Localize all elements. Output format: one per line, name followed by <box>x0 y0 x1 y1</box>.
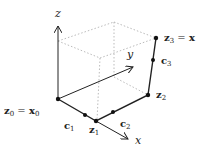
point-c2 <box>111 110 115 114</box>
c2-label: c2 <box>120 118 131 131</box>
z-axis-label: z <box>54 7 61 20</box>
z0-label: z0 = x0 <box>4 105 39 118</box>
z1-label: z1 <box>89 124 99 137</box>
point-z1 <box>94 119 98 123</box>
path-segments <box>58 38 156 121</box>
point-z2 <box>146 93 150 97</box>
coordinate-path-diagram: z y x z0 = x0 c1 z1 c2 z2 c3 z3 = x <box>0 0 208 150</box>
z2-label: z2 <box>156 89 166 102</box>
c1-label: c1 <box>64 120 75 133</box>
path-points <box>56 36 158 123</box>
point-c1 <box>83 113 87 117</box>
point-c3 <box>151 58 155 62</box>
y-axis-label: y <box>126 48 134 61</box>
x-axis-label: x <box>135 134 142 147</box>
z3-label: z3 = x <box>164 32 196 45</box>
point-z3 <box>154 36 158 40</box>
c3-label: c3 <box>161 55 172 68</box>
point-z0 <box>56 97 60 101</box>
dotted-box <box>58 22 156 121</box>
y-axis <box>58 67 133 99</box>
